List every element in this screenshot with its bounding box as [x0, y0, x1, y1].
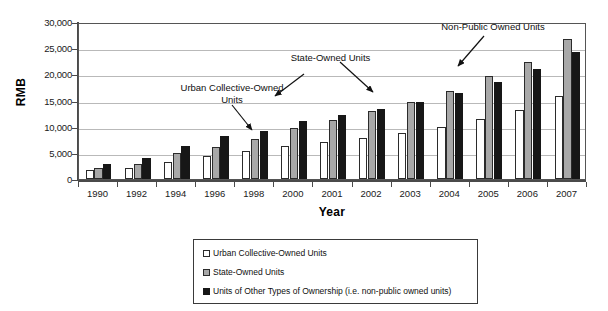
legend-swatch-icon [203, 250, 210, 257]
y-axis-tick [72, 49, 77, 50]
annotation-arrow [340, 62, 373, 92]
legend-label: Urban Collective-Owned Units [213, 249, 327, 258]
annotation-arrow [232, 105, 252, 130]
legend-label: Units of Other Types of Ownership (i.e. … [213, 287, 451, 296]
legend-swatch-icon [203, 288, 210, 295]
y-axis-tick [72, 128, 77, 129]
y-axis-tick [72, 154, 77, 155]
legend-swatch-icon [203, 269, 210, 276]
chart-area: RMB 05,00010,00015,00020,00025,00030,000… [0, 0, 608, 230]
chart-legend: Urban Collective-Owned UnitsState-Owned … [193, 239, 478, 304]
y-axis-tick [72, 102, 77, 103]
y-axis-tick [72, 75, 77, 76]
legend-item: Units of Other Types of Ownership (i.e. … [203, 287, 451, 296]
y-axis-tick [72, 180, 77, 181]
chart-figure: RMB 05,00010,00015,00020,00025,00030,000… [0, 0, 608, 311]
annotation-arrow [458, 36, 484, 66]
annotation-arrows [0, 0, 608, 230]
annotation-arrow [275, 74, 304, 96]
y-axis-tick [72, 23, 77, 24]
legend-label: State-Owned Units [213, 268, 284, 277]
legend-item: Urban Collective-Owned Units [203, 249, 327, 258]
legend-item: State-Owned Units [203, 268, 284, 277]
